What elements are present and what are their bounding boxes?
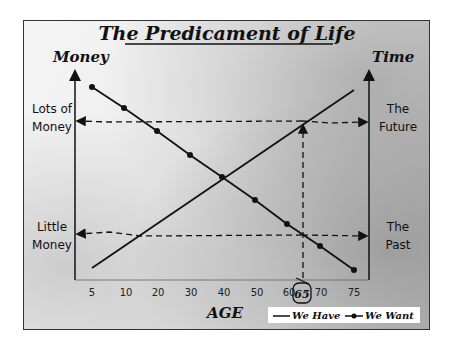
x-tick: 50	[251, 287, 264, 298]
x-tick: 70	[315, 287, 328, 298]
x-axis-title: AGE	[205, 304, 243, 322]
the-past-label-1: The	[386, 220, 409, 234]
lots-of-label: Lots of	[32, 102, 73, 116]
right-axis-title: Time	[372, 48, 414, 66]
the-future-label-1: The	[386, 102, 409, 116]
x-tick: 10	[120, 287, 133, 298]
x-tick: 40	[218, 287, 231, 298]
x-tick-labels: 5 10 20 30 40 50 60 70 75	[89, 287, 361, 298]
legend-we-want-marker	[352, 314, 357, 319]
little-money-dashed-arrow	[78, 232, 302, 236]
chart-title: The Predicament of Life	[98, 22, 355, 44]
lots-money-dashed-arrow	[78, 121, 302, 122]
x-tick: 30	[185, 287, 198, 298]
past-dashed-arrow	[302, 235, 366, 236]
x-tick: 75	[348, 287, 361, 298]
money-top-label: Money	[32, 120, 72, 134]
annotation-65: 65	[294, 288, 309, 301]
the-future-label-2: Future	[379, 120, 417, 134]
x-tick: 20	[152, 287, 165, 298]
left-axis-title: Money	[52, 48, 110, 66]
money-bottom-label: Money	[32, 238, 72, 252]
x-tick: 5	[89, 287, 95, 298]
the-past-label-2: Past	[385, 238, 410, 252]
legend-we-want-label: We Want	[365, 310, 414, 321]
chart-canvas: The Predicament of Life Money Time Lots …	[0, 0, 455, 346]
legend-we-have-label: We Have	[292, 310, 340, 321]
future-dashed-arrow	[302, 121, 366, 123]
little-label: Little	[37, 220, 67, 234]
